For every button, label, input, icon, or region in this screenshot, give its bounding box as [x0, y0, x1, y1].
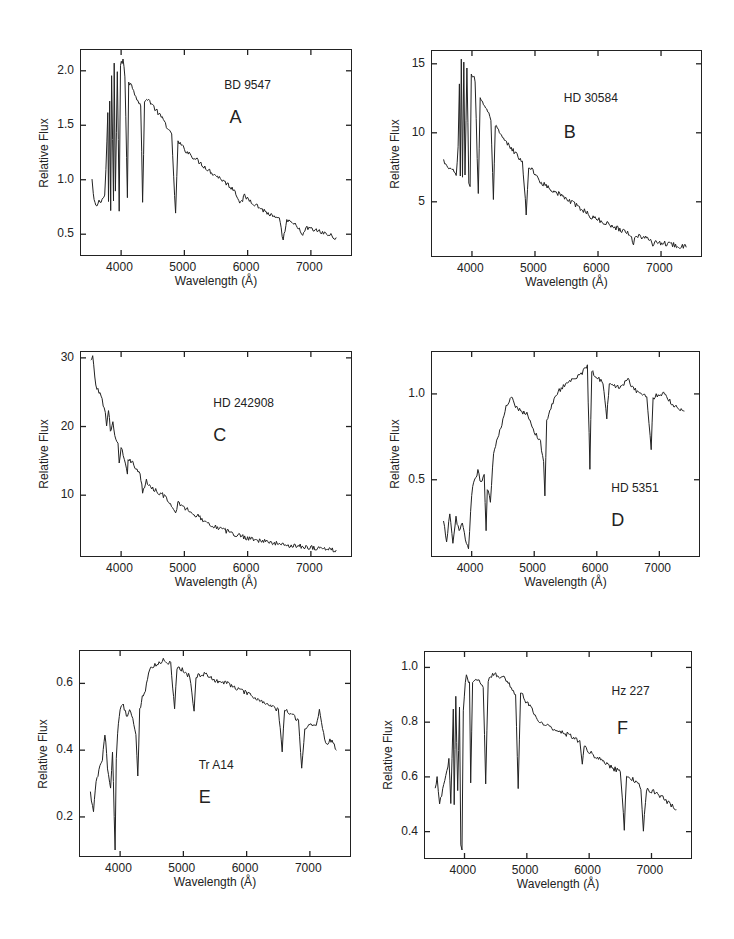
y-tick-label: 20	[61, 419, 74, 433]
y-axis-title: Relative Flux	[36, 719, 50, 788]
x-tick-label: 5000	[169, 561, 196, 575]
x-tick-label: 6000	[574, 863, 601, 877]
y-tick-label: 0.6	[401, 769, 418, 783]
spectrum-panel-f: 40005000600070000.40.60.81.0Wavelength (…	[424, 651, 692, 859]
spectrum-plot	[431, 50, 702, 257]
y-axis-title: Relative Flux	[37, 419, 51, 488]
y-tick-label: 10	[412, 125, 425, 139]
x-axis-title: Wavelength (Å)	[524, 575, 606, 589]
y-tick-label: 1.0	[401, 659, 418, 673]
x-tick-label: 6000	[582, 561, 609, 575]
x-tick-label: 5000	[512, 863, 539, 877]
spectrum-panel-c: 4000500060007000102030Wavelength (Å)Rela…	[80, 351, 352, 557]
spectrum-plot	[424, 651, 692, 859]
spectrum-line	[435, 673, 676, 850]
x-tick-label: 4000	[105, 861, 132, 875]
spectrum-line	[444, 59, 687, 248]
y-tick-label: 15	[412, 56, 425, 70]
spectrum-plot	[431, 351, 700, 557]
spectrum-panel-d: 40005000600070000.51.0Wavelength (Å)Rela…	[431, 351, 700, 557]
y-tick-label: 5	[418, 194, 425, 208]
spectrum-plot	[80, 49, 352, 256]
star-name-label: HD 30584	[564, 91, 618, 105]
spectrum-line	[92, 59, 336, 240]
x-tick-label: 7000	[296, 260, 323, 274]
y-axis-title: Relative Flux	[388, 419, 402, 488]
spectrum-panel-b: 400050006000700051015Wavelength (Å)Relat…	[431, 50, 702, 257]
y-tick-label: 0.5	[57, 226, 74, 240]
x-tick-label: 7000	[644, 561, 671, 575]
x-tick-label: 4000	[106, 260, 133, 274]
y-axis-title: Relative Flux	[37, 118, 51, 187]
x-tick-label: 5000	[519, 561, 546, 575]
spectrum-line	[91, 356, 336, 552]
panel-letter-label: F	[617, 718, 628, 739]
y-tick-label: 1.0	[57, 172, 74, 186]
star-name-label: BD 9547	[224, 78, 271, 92]
x-tick-label: 5000	[168, 861, 195, 875]
star-name-label: Tr A14	[199, 758, 234, 772]
y-tick-label: 0.2	[56, 809, 73, 823]
x-tick-label: 5000	[169, 260, 196, 274]
x-tick-label: 6000	[583, 261, 610, 275]
panel-letter-label: E	[199, 787, 211, 808]
star-name-label: HD 242908	[213, 396, 274, 410]
y-tick-label: 1.0	[408, 386, 425, 400]
x-axis-title: Wavelength (Å)	[175, 575, 257, 589]
x-tick-label: 4000	[457, 561, 484, 575]
y-axis-title: Relative Flux	[388, 119, 402, 188]
x-tick-label: 7000	[295, 861, 322, 875]
x-tick-label: 6000	[233, 260, 260, 274]
x-tick-label: 6000	[233, 561, 260, 575]
x-tick-label: 7000	[636, 863, 663, 877]
x-axis-title: Wavelength (Å)	[525, 275, 607, 289]
y-tick-label: 0.4	[401, 824, 418, 838]
x-tick-label: 4000	[457, 261, 484, 275]
x-tick-label: 6000	[232, 861, 259, 875]
x-tick-label: 4000	[106, 561, 133, 575]
y-tick-label: 2.0	[57, 63, 74, 77]
spectrum-panel-a: 40005000600070000.51.01.52.0Wavelength (…	[80, 49, 352, 256]
y-axis-title: Relative Flux	[381, 720, 395, 789]
x-tick-label: 7000	[646, 261, 673, 275]
panel-letter-label: C	[213, 425, 226, 446]
y-tick-label: 0.4	[56, 742, 73, 756]
panel-letter-label: B	[564, 122, 576, 143]
x-axis-title: Wavelength (Å)	[174, 875, 256, 889]
x-axis-title: Wavelength (Å)	[517, 877, 599, 891]
y-tick-label: 0.5	[408, 472, 425, 486]
panel-letter-label: A	[230, 107, 242, 128]
y-tick-label: 10	[61, 487, 74, 501]
y-tick-label: 0.8	[401, 714, 418, 728]
panel-letter-label: D	[611, 510, 624, 531]
spectrum-panel-e: 40005000600070000.20.40.6Wavelength (Å)R…	[79, 650, 351, 857]
y-tick-label: 30	[61, 350, 74, 364]
x-tick-label: 7000	[296, 561, 323, 575]
star-name-label: Hz 227	[612, 684, 650, 698]
y-tick-label: 0.6	[56, 675, 73, 689]
spectrum-plot	[80, 351, 352, 557]
spectrum-plot	[79, 650, 351, 857]
y-tick-label: 1.5	[57, 117, 74, 131]
star-name-label: HD 5351	[611, 481, 658, 495]
spectrum-line	[444, 365, 685, 549]
x-tick-label: 4000	[450, 863, 477, 877]
spectrum-line	[90, 658, 336, 850]
x-tick-label: 5000	[520, 261, 547, 275]
x-axis-title: Wavelength (Å)	[175, 274, 257, 288]
